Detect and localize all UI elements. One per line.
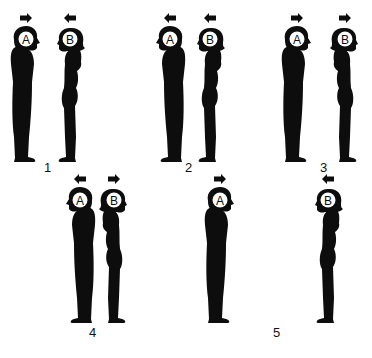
person-b-panel-4: B bbox=[94, 173, 134, 333]
arrow-left-icon bbox=[164, 13, 176, 23]
body-silhouette bbox=[71, 207, 96, 323]
panel-label-3: 3 bbox=[320, 160, 327, 175]
person-letter: A bbox=[76, 194, 84, 208]
person-letter: A bbox=[166, 33, 174, 47]
person-letter: B bbox=[66, 33, 74, 47]
person-letter: B bbox=[206, 33, 214, 47]
panel-label-5: 5 bbox=[273, 325, 280, 340]
panel-label-1: 1 bbox=[44, 160, 51, 175]
person-letter: B bbox=[324, 194, 332, 208]
arrow-right-icon bbox=[108, 174, 120, 184]
person-b-panel-5: B bbox=[308, 173, 348, 333]
body-silhouette bbox=[199, 48, 222, 162]
arrow-right-icon bbox=[291, 13, 303, 23]
person-a-panel-5: A bbox=[200, 173, 240, 333]
arrow-right-icon bbox=[339, 13, 351, 23]
panel-label-2: 2 bbox=[185, 160, 192, 175]
arrow-right-icon bbox=[214, 174, 226, 184]
body-silhouette bbox=[317, 209, 340, 323]
body-silhouette bbox=[334, 48, 357, 162]
person-b-panel-1: B bbox=[50, 12, 90, 172]
body-silhouette bbox=[282, 46, 307, 162]
person-letter: B bbox=[341, 33, 349, 47]
arrow-left-icon bbox=[74, 174, 86, 184]
body-silhouette bbox=[205, 207, 230, 323]
person-letter: A bbox=[293, 33, 301, 47]
body-silhouette bbox=[11, 46, 36, 162]
person-a-panel-1: A bbox=[6, 12, 46, 172]
person-letter: B bbox=[110, 194, 118, 208]
arrow-left-icon bbox=[64, 13, 76, 23]
figure-diagram: ABABABABAB 1 2 3 4 5 bbox=[0, 0, 372, 358]
body-silhouette bbox=[59, 48, 82, 162]
arrow-right-icon bbox=[20, 13, 32, 23]
person-a-panel-2: A bbox=[150, 12, 190, 172]
panel-label-4: 4 bbox=[89, 325, 96, 340]
person-b-panel-2: B bbox=[190, 12, 230, 172]
person-letter: A bbox=[22, 33, 30, 47]
person-b-panel-3: B bbox=[325, 12, 365, 172]
body-silhouette bbox=[161, 46, 186, 162]
arrow-left-icon bbox=[322, 174, 334, 184]
body-silhouette bbox=[103, 209, 126, 323]
person-a-panel-3: A bbox=[277, 12, 317, 172]
person-letter: A bbox=[216, 194, 224, 208]
arrow-left-icon bbox=[204, 13, 216, 23]
